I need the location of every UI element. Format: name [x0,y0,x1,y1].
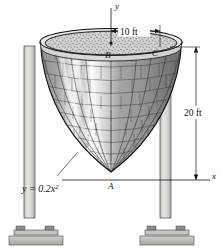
curve-equation-text: y = 0.2x [21,183,56,194]
equation-leader-line [57,152,78,176]
left-anchor-bolts [16,226,54,230]
point-b-label: B [105,50,111,60]
left-footing [9,226,63,245]
height-dimension-label: 20 ft [184,108,202,118]
bowl-on-columns-figure: y x 10 ft 20 ft B C A y = 0.2x2 [0,0,222,248]
right-footing [140,226,194,245]
right-anchor-bolts [147,226,185,230]
point-a-label: A [107,181,114,191]
curve-equation-exponent: 2 [55,183,59,191]
point-c-label: C [152,48,159,58]
x-axis-label: x [211,171,216,181]
y-axis-label: y [114,1,119,11]
curve-equation-label: y = 0.2x2 [21,183,59,194]
point-b-marker [109,41,112,44]
radius-dimension-label: 10 ft [120,27,138,37]
